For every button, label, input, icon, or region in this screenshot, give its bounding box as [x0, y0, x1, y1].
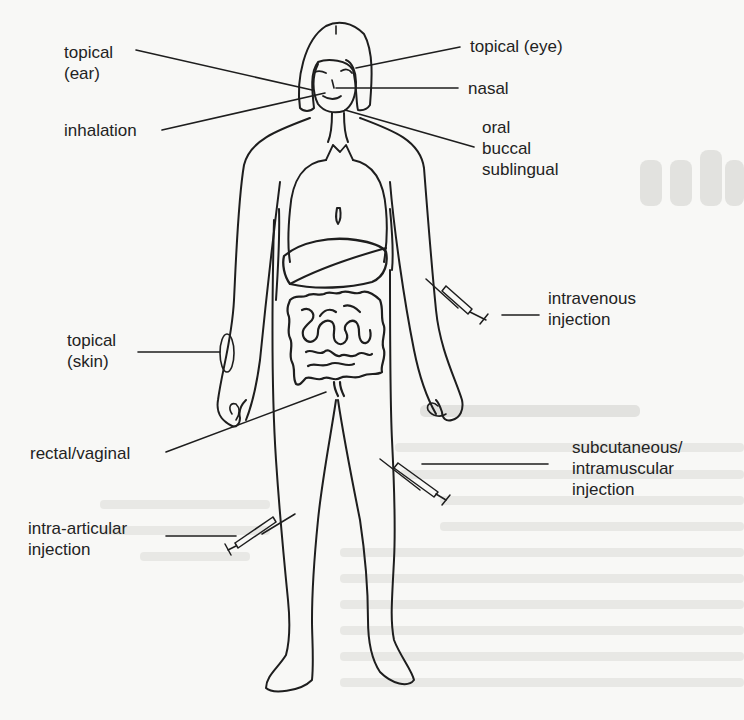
- body-right-outline: [360, 118, 463, 421]
- stomach-divider: [290, 248, 386, 284]
- syringe-icon: [225, 514, 295, 555]
- left-waist-line: [276, 209, 279, 300]
- small-intestine-coils: [302, 305, 372, 366]
- label-line: topical: [64, 42, 113, 63]
- label-line: (ear): [64, 63, 113, 84]
- label-subcutaneous-intramuscular-injection: subcutaneous/ intramuscular injection: [572, 437, 683, 500]
- label-line: inhalation: [64, 120, 137, 141]
- digestive-organs: [283, 208, 386, 288]
- label-line: topical (eye): [470, 36, 563, 57]
- label-topical-skin: topical (skin): [67, 330, 116, 372]
- label-line: oral: [482, 117, 559, 138]
- label-nasal: nasal: [468, 78, 509, 99]
- label-rectal-vaginal: rectal/vaginal: [30, 443, 130, 464]
- label-line: intramuscular: [572, 458, 683, 479]
- nose: [332, 80, 334, 88]
- left-lung: [289, 160, 327, 262]
- label-line: buccal: [482, 138, 559, 159]
- body-left-outline: [218, 118, 310, 427]
- label-line: nasal: [468, 78, 509, 99]
- leader-topical-ear: [136, 50, 312, 90]
- left-hand-fingers: [230, 404, 239, 420]
- label-topical-ear: topical (ear): [64, 42, 113, 84]
- left-leg-outer: [266, 220, 313, 691]
- label-inhalation: inhalation: [64, 120, 137, 141]
- rectum: [334, 382, 344, 396]
- syringe-icon: [380, 459, 450, 505]
- label-line: subcutaneous/: [572, 437, 683, 458]
- routes-of-administration-diagram: topical (ear) inhalation topical (eye) n…: [0, 0, 744, 720]
- label-line: intravenous: [548, 288, 636, 309]
- intestines: [287, 292, 384, 396]
- left-leg-inner: [312, 400, 336, 620]
- label-line: injection: [548, 309, 636, 330]
- left-eye: [315, 71, 326, 73]
- trachea-bronchi: [326, 145, 353, 160]
- label-line: injection: [28, 539, 127, 560]
- label-intra-articular-injection: intra-articular injection: [28, 518, 127, 560]
- face-outline: [314, 60, 357, 112]
- label-topical-eye: topical (eye): [470, 36, 563, 57]
- label-line: (skin): [67, 351, 116, 372]
- label-oral-buccal-sublingual: oral buccal sublingual: [482, 117, 559, 180]
- left-inner-arm: [246, 182, 280, 420]
- right-waist-line: [390, 209, 393, 270]
- right-inner-arm: [390, 182, 436, 414]
- label-line: intra-articular: [28, 518, 127, 539]
- neck-right: [344, 113, 348, 142]
- label-line: injection: [572, 479, 683, 500]
- label-line: rectal/vaginal: [30, 443, 130, 464]
- right-eye: [341, 70, 352, 73]
- label-line: topical: [67, 330, 116, 351]
- mouth: [323, 96, 341, 99]
- stomach-top: [336, 208, 341, 224]
- leader-inhalation: [162, 93, 325, 130]
- label-intravenous-injection: intravenous injection: [548, 288, 636, 330]
- neck-left: [328, 113, 332, 142]
- label-line: sublingual: [482, 159, 559, 180]
